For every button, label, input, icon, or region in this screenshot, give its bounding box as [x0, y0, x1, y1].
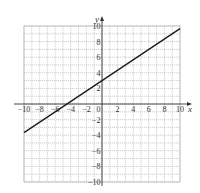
x-tick-label: 4 [131, 105, 135, 114]
y-tick-label: −4 [92, 131, 101, 140]
y-tick-label: 4 [97, 69, 101, 78]
x-tick-label: −8 [35, 105, 44, 114]
x-tick-label: 8 [162, 105, 166, 114]
y-axis-arrow-icon [100, 16, 104, 21]
y-tick-label: 2 [97, 84, 101, 93]
y-tick-label: −8 [92, 162, 101, 171]
y-tick-label: −10 [88, 178, 101, 187]
coordinate-plane-chart: −10−8−6−4−20246810108642−2−4−6−8−10 x y [0, 0, 200, 193]
x-tick-label: −10 [18, 105, 31, 114]
x-tick-label: −4 [67, 105, 76, 114]
x-axis-label: x [187, 104, 192, 114]
y-tick-label: 8 [97, 38, 101, 47]
y-tick-label: 6 [97, 53, 101, 62]
x-tick-label: 10 [176, 105, 184, 114]
x-tick-label: 0 [97, 105, 101, 114]
x-tick-label: 2 [116, 105, 120, 114]
x-tick-label: 6 [147, 105, 151, 114]
x-tick-label: −2 [82, 105, 91, 114]
tick-labels: −10−8−6−4−20246810108642−2−4−6−8−10 [18, 22, 184, 187]
y-axis-label: y [94, 14, 99, 24]
y-tick-label: −6 [92, 147, 101, 156]
y-tick-label: −2 [92, 116, 101, 125]
